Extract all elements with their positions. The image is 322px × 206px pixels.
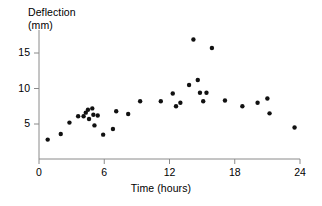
data-point [255, 101, 259, 105]
data-point [91, 113, 95, 117]
data-point [196, 78, 200, 82]
data-point [96, 113, 100, 117]
data-point [46, 137, 50, 141]
data-point [201, 99, 205, 103]
data-point [292, 125, 296, 129]
data-point [92, 123, 96, 127]
y-axis-tick-label: 10 [10, 83, 30, 94]
data-point [198, 91, 202, 95]
x-axis-ticks [39, 159, 300, 164]
data-point [76, 114, 80, 118]
x-axis-title: Time (hours) [0, 182, 322, 194]
data-point [265, 96, 269, 100]
data-point [267, 111, 271, 115]
data-point [171, 91, 175, 95]
data-point [191, 37, 195, 41]
x-axis-tick-label: 12 [159, 167, 181, 178]
x-axis-tick-label: 24 [289, 167, 311, 178]
data-point [90, 106, 94, 110]
data-point [138, 99, 142, 103]
y-axis-tick-label: 15 [10, 47, 30, 58]
data-point [210, 46, 214, 50]
data-point-group [46, 37, 297, 142]
data-point [87, 117, 91, 121]
data-point [67, 120, 71, 124]
data-point [59, 132, 63, 136]
data-point [111, 127, 115, 131]
data-point [86, 108, 90, 112]
data-point [178, 101, 182, 105]
data-point [101, 132, 105, 136]
y-axis-tick-label: 5 [10, 118, 30, 129]
data-point [114, 109, 118, 113]
data-point [174, 104, 178, 108]
scatter-plot-figure: Deflection (mm) 51015 06121824 Time (hou… [0, 0, 322, 206]
data-point [126, 112, 130, 116]
axis-lines [39, 30, 300, 159]
data-point [223, 98, 227, 102]
data-point [204, 91, 208, 95]
data-point [240, 104, 244, 108]
x-axis-tick-label: 0 [28, 167, 50, 178]
x-axis-tick-label: 6 [93, 167, 115, 178]
y-axis-ticks [34, 53, 39, 124]
data-point [187, 83, 191, 87]
x-axis-tick-label: 18 [224, 167, 246, 178]
data-point [159, 99, 163, 103]
